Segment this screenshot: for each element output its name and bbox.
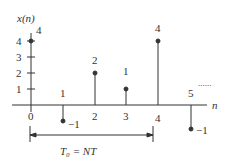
point-label: −1 [196, 124, 208, 136]
point-label: 2 [92, 54, 98, 66]
point-label: 4 [155, 22, 161, 34]
x-tick-label: 5 [188, 87, 194, 99]
period-label: T₀ = NT [60, 145, 97, 157]
period-arrow [30, 126, 153, 142]
x-tick-label: 4 [155, 112, 161, 124]
point-label: 1 [123, 65, 129, 77]
stem-plot: x(n) n 1 2 3 4 4 −1 2 1 4 −1 0 1 2 3 4 5… [0, 0, 233, 166]
continuation-dots: ...... [198, 78, 212, 88]
y-axis-label: x(n) [16, 12, 35, 25]
x-axis-label: n [212, 99, 218, 111]
stems [29, 39, 193, 131]
x-tick-label: 2 [92, 110, 98, 122]
y-tick-label: 1 [16, 83, 22, 95]
point-label: −1 [68, 118, 80, 130]
point-label: 4 [36, 24, 42, 36]
y-tick-label: 2 [16, 67, 22, 79]
x-tick-label: 1 [60, 87, 66, 99]
y-tick-label: 3 [16, 51, 22, 63]
x-tick-label: 0 [28, 110, 34, 122]
x-tick-label: 3 [123, 110, 129, 122]
y-tick-label: 4 [16, 35, 22, 47]
